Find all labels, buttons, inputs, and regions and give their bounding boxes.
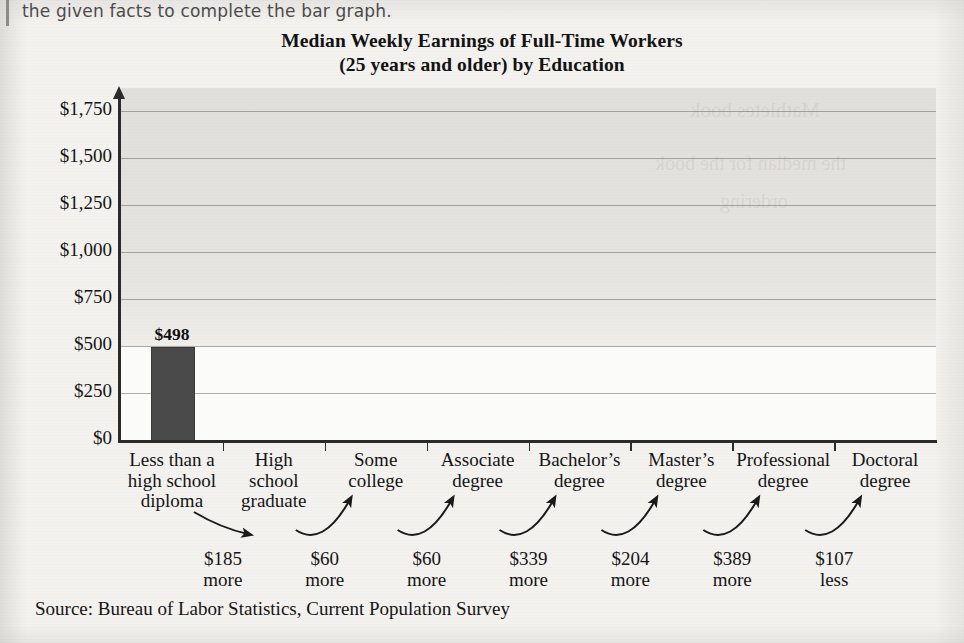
bar-value-label: $498 (122, 324, 222, 345)
gridline (121, 252, 936, 253)
bar (151, 347, 195, 442)
category-label-line: degree (823, 471, 947, 492)
annotation-label: $204more (575, 548, 685, 590)
annotation-arrow-icon (500, 500, 554, 535)
x-axis-tick (325, 442, 327, 451)
annotation-direction: more (372, 569, 482, 590)
y-axis-tick-label: $250 (74, 380, 112, 402)
annotation-amount: $204 (575, 548, 685, 569)
annotation-arrow-icon (703, 500, 757, 535)
annotation-label: $60more (372, 548, 482, 590)
exercise-stem-text: the given facts to complete the bar grap… (22, 1, 392, 21)
annotation-direction: more (270, 569, 380, 590)
annotation-arrow-icon (194, 512, 248, 534)
y-axis-arrowhead-icon (113, 86, 125, 99)
gridline (121, 346, 936, 347)
annotation-arrow-icon (601, 500, 655, 535)
annotation-label: $107less (779, 548, 889, 590)
x-axis-tick (834, 442, 836, 451)
annotation-amount: $60 (270, 548, 380, 569)
y-axis-tick-label: $500 (74, 333, 112, 355)
chart-title-block: Median Weekly Earnings of Full-Time Work… (0, 29, 964, 77)
y-axis-tick-label: $1,500 (60, 145, 112, 167)
annotation-direction: more (677, 569, 787, 590)
source-note: Source: Bureau of Labor Statistics, Curr… (35, 598, 510, 620)
annotation-direction: less (779, 569, 889, 590)
x-axis-tick (427, 442, 429, 451)
bar-chart: $0$250$500$750$1,000$1,250$1,500$1,750 $… (0, 0, 964, 643)
gridline (121, 393, 936, 394)
category-label-line: graduate (212, 491, 336, 512)
chart-subtitle: (25 years and older) by Education (0, 53, 964, 77)
annotation-label: $185more (168, 548, 278, 590)
x-axis-tick (529, 442, 531, 451)
y-axis-tick-label: $1,750 (60, 98, 112, 120)
annotation-arrow-icon (805, 500, 859, 535)
annotation-label: $389more (677, 548, 787, 590)
gridline (121, 158, 936, 159)
x-axis-tick (223, 442, 225, 451)
y-axis-tick-label: $1,000 (60, 239, 112, 261)
annotation-arrow-icon (398, 500, 452, 535)
annotation-amount: $185 (168, 548, 278, 569)
y-axis-tick-label: $1,250 (60, 192, 112, 214)
annotation-amount: $107 (779, 548, 889, 569)
annotation-label: $339more (474, 548, 584, 590)
y-axis-line (118, 96, 121, 441)
gridline (121, 205, 936, 206)
chart-title: Median Weekly Earnings of Full-Time Work… (0, 29, 964, 53)
y-axis-tick-label: $0 (93, 427, 112, 449)
annotation-amount: $339 (474, 548, 584, 569)
x-axis-category-label: Doctoraldegree (823, 450, 947, 491)
annotation-amount: $389 (677, 548, 787, 569)
gridline (121, 111, 936, 112)
category-label-line: Doctoral (823, 450, 947, 471)
gridline (121, 299, 936, 300)
x-axis-tick (630, 442, 632, 451)
annotation-label: $60more (270, 548, 380, 590)
annotation-amount: $60 (372, 548, 482, 569)
annotation-direction: more (168, 569, 278, 590)
x-axis-tick (732, 442, 734, 451)
annotation-direction: more (474, 569, 584, 590)
y-axis-tick-label: $750 (74, 286, 112, 308)
annotation-direction: more (575, 569, 685, 590)
x-axis-line (118, 440, 937, 443)
